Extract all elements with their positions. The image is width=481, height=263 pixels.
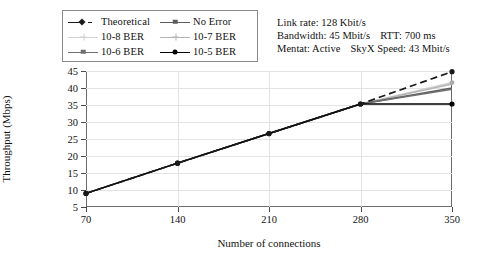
plot-area: 51015202530354045 70140210280350 [86, 71, 452, 207]
x-tick [86, 207, 87, 212]
legend-entry-no-error: No Error [160, 16, 252, 27]
chart-legend: Theoretical No Error 10-8 BER 10-7 BER 1… [62, 10, 258, 62]
x-tick [452, 207, 453, 212]
plus-marker-icon [68, 31, 98, 42]
x-tick-label: 280 [353, 214, 369, 225]
legend-entry-10-5-ber: 10-5 BER [160, 46, 252, 57]
y-tick-label: 30 [68, 117, 79, 128]
y-tick-label: 25 [68, 134, 79, 145]
series-line-10-7-ber [86, 84, 452, 193]
legend-row: 10-8 BER 10-7 BER [68, 29, 252, 44]
legend-label: No Error [193, 16, 231, 27]
data-point [266, 131, 271, 136]
y-tick-label: 35 [68, 100, 79, 111]
y-tick-label: 45 [68, 66, 79, 77]
x-tick [361, 207, 362, 212]
y-axis-title: Throughput (Mbps) [0, 95, 12, 182]
x-tick-label: 70 [81, 214, 92, 225]
series-line-10-6-ber [86, 89, 452, 193]
legend-label: 10-6 BER [101, 46, 144, 57]
annotation-line-link-rate: Link rate: 128 Kbit/s [277, 16, 450, 29]
annotation-skyx: SkyX Speed: 43 Mbit/s [350, 43, 449, 54]
annotation-line-bandwidth-rtt: Bandwidth: 45 Mbit/sRTT: 700 ms [277, 29, 450, 42]
square-marker-icon [160, 16, 190, 27]
circle-marker-icon [160, 46, 190, 57]
legend-entry-10-6-ber: 10-6 BER [68, 46, 160, 57]
annotation-mentat: Mentat: Active [277, 43, 340, 54]
x-tick-label: 210 [261, 214, 277, 225]
legend-row: 10-6 BER 10-5 BER [68, 44, 252, 59]
legend-label: Theoretical [101, 16, 150, 27]
data-point [175, 161, 180, 166]
data-point [449, 101, 454, 106]
legend-label: 10-5 BER [193, 46, 236, 57]
diamond-marker-icon [68, 16, 98, 27]
annotation-line-mentat-skyx: Mentat: ActiveSkyX Speed: 43 Mbit/s [277, 42, 450, 55]
data-point [450, 80, 455, 85]
y-tick-label: 10 [68, 185, 79, 196]
data-point [358, 101, 363, 106]
data-point [83, 191, 88, 196]
y-tick-label: 40 [68, 83, 79, 94]
x-tick [178, 207, 179, 212]
y-tick-label: 15 [68, 168, 79, 179]
parameters-annotation: Link rate: 128 Kbit/s Bandwidth: 45 Mbit… [277, 16, 450, 56]
series-line-10-5-ber [86, 104, 452, 193]
x-tick-label: 350 [444, 214, 460, 225]
x-axis-title: Number of connections [217, 237, 320, 249]
y-tick-label: 5 [73, 202, 78, 213]
data-series-layer [86, 71, 452, 207]
x-tick [269, 207, 270, 212]
y-tick-label: 20 [68, 151, 79, 162]
data-point [449, 69, 454, 74]
annotation-bandwidth: Bandwidth: 45 Mbit/s [277, 30, 370, 41]
chart-figure: Theoretical No Error 10-8 BER 10-7 BER 1… [0, 0, 481, 263]
x-tick-label: 140 [170, 214, 186, 225]
legend-entry-theoretical: Theoretical [68, 16, 160, 27]
annotation-rtt: RTT: 700 ms [380, 30, 435, 41]
square-marker-icon [68, 46, 98, 57]
plus-marker-icon [160, 31, 190, 42]
legend-row: Theoretical No Error [68, 14, 252, 29]
legend-entry-10-7-ber: 10-7 BER [160, 31, 252, 42]
legend-entry-10-8-ber: 10-8 BER [68, 31, 160, 42]
legend-label: 10-7 BER [193, 31, 236, 42]
series-line-10-8-ber [86, 83, 452, 194]
legend-label: 10-8 BER [101, 31, 144, 42]
